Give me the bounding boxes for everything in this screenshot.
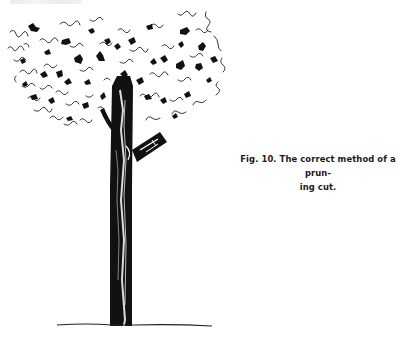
tree-drawing <box>0 0 240 337</box>
figure-caption: Fig. 10. The correct method of a prun- i… <box>238 152 398 194</box>
caption-line-2: ing cut. <box>238 180 398 194</box>
tree-trunk <box>110 76 133 330</box>
caption-line-1: Fig. 10. The correct method of a prun- <box>238 152 398 180</box>
ground-line <box>57 324 212 326</box>
tree-illustration <box>0 0 240 337</box>
